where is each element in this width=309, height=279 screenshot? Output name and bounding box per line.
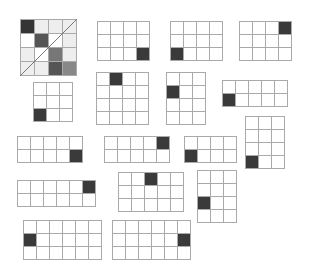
grid-cell xyxy=(31,137,44,150)
grid-cell xyxy=(132,199,145,212)
grid-cell xyxy=(197,35,210,48)
grid-cell xyxy=(198,171,211,184)
grid-cell xyxy=(50,234,63,247)
grid-cell xyxy=(60,96,73,109)
grid-cell xyxy=(37,247,50,260)
highlighted-cell xyxy=(110,73,123,86)
grid-cell xyxy=(224,137,237,150)
grid-cell xyxy=(211,137,224,150)
grid-cell xyxy=(60,83,73,96)
grid-g7 xyxy=(166,72,206,125)
highlighted-cell xyxy=(223,94,236,107)
grid-cell xyxy=(124,35,137,48)
grid-cell xyxy=(35,20,49,34)
grid-cell xyxy=(223,81,236,94)
grid-cell xyxy=(63,34,77,48)
grid-cell xyxy=(136,112,149,125)
grid-cell xyxy=(253,35,266,48)
grid-cell xyxy=(111,22,124,35)
grid-cell xyxy=(76,221,89,234)
grid-g6 xyxy=(96,72,149,125)
grid-cell xyxy=(246,130,259,143)
grid-cell xyxy=(193,99,206,112)
grid-cell xyxy=(131,150,144,163)
grid-cell xyxy=(124,22,137,35)
grid-cell xyxy=(47,83,60,96)
grid-cell xyxy=(111,48,124,61)
grid-cell xyxy=(165,247,178,260)
grid-cell xyxy=(37,221,50,234)
grid-g10 xyxy=(104,136,170,163)
grid-cell xyxy=(111,35,124,48)
highlighted-cell xyxy=(185,150,198,163)
grid-cell xyxy=(35,62,49,76)
grid-cell xyxy=(97,86,110,99)
grid-cell xyxy=(193,112,206,125)
grid-cell xyxy=(211,171,224,184)
grid-cell xyxy=(259,156,272,169)
grid-g17 xyxy=(112,220,191,260)
grid-cell xyxy=(21,62,35,76)
highlighted-cell xyxy=(178,234,191,247)
grid-cell xyxy=(123,86,136,99)
grid-cell xyxy=(224,171,237,184)
grid-cell xyxy=(171,199,184,212)
grid-cell xyxy=(24,221,37,234)
highlighted-cell xyxy=(49,48,63,62)
grid-cell xyxy=(139,234,152,247)
grid-cell xyxy=(198,150,211,163)
grid-cell xyxy=(180,112,193,125)
grid-cell xyxy=(152,247,165,260)
grid-cell xyxy=(137,22,150,35)
grid-cell xyxy=(57,194,70,207)
grid-cell xyxy=(198,210,211,223)
grid-cell xyxy=(262,81,275,94)
highlighted-cell xyxy=(34,109,47,122)
grid-cell xyxy=(63,221,76,234)
grid-cell xyxy=(246,117,259,130)
grid-cell xyxy=(158,173,171,186)
grid-cell xyxy=(210,22,223,35)
grid-cell xyxy=(157,150,170,163)
grid-cell xyxy=(184,22,197,35)
grid-g5 xyxy=(33,82,73,122)
grid-cell xyxy=(34,96,47,109)
grid-cell xyxy=(197,48,210,61)
highlighted-cell xyxy=(145,173,158,186)
grid-cell xyxy=(210,48,223,61)
grid-cell xyxy=(165,221,178,234)
grid-cell xyxy=(131,137,144,150)
grid-cell xyxy=(44,150,57,163)
grid-cell xyxy=(18,150,31,163)
grid-cell xyxy=(31,150,44,163)
highlighted-cell xyxy=(137,48,150,61)
grid-cell xyxy=(124,48,137,61)
grid-cell xyxy=(83,194,96,207)
grid-cell xyxy=(89,234,102,247)
grid-cell xyxy=(224,184,237,197)
grid-cell xyxy=(49,20,63,34)
grid-cell xyxy=(272,130,285,143)
grid-cell xyxy=(18,137,31,150)
grid-cell xyxy=(167,112,180,125)
grid-g16 xyxy=(23,220,102,260)
grid-cell xyxy=(180,73,193,86)
grid-cell xyxy=(259,117,272,130)
highlighted-cell xyxy=(24,234,37,247)
grid-cell xyxy=(224,150,237,163)
grid-cell xyxy=(249,81,262,94)
grid-cell xyxy=(240,48,253,61)
grid-cell xyxy=(98,35,111,48)
grid-cell xyxy=(21,34,35,48)
grid-cell xyxy=(184,35,197,48)
grid-cell xyxy=(126,234,139,247)
grid-cell xyxy=(126,247,139,260)
grid-cell xyxy=(193,86,206,99)
grid-cell xyxy=(44,137,57,150)
highlighted-cell xyxy=(279,22,292,35)
grid-cell xyxy=(63,48,77,62)
grid-cell xyxy=(136,86,149,99)
grid-cell xyxy=(272,156,285,169)
grid-g13 xyxy=(17,180,96,207)
grid-cell xyxy=(249,94,262,107)
